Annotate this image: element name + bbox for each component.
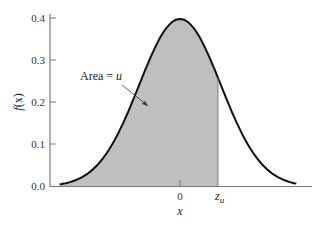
y-axis-label: f(x) [11, 93, 25, 110]
normal-distribution-chart: 0.4 0.3 0.2 0.1 0.0 f(x) 0 zu x Area = u [0, 0, 327, 227]
y-tick-label: 0.1 [31, 138, 45, 150]
y-tick-label: 0.4 [31, 12, 45, 24]
x-tick-label-zero: 0 [177, 190, 183, 202]
y-tick-label: 0.2 [31, 96, 45, 108]
y-tick-label: 0.0 [31, 180, 45, 192]
x-axis-label: x [176, 204, 183, 218]
x-tick-label-zu: zu [214, 189, 225, 205]
y-ticks [50, 18, 56, 144]
y-tick-label: 0.3 [31, 54, 45, 66]
shaded-area-region [60, 19, 218, 187]
area-annotation: Area = u [80, 69, 122, 83]
